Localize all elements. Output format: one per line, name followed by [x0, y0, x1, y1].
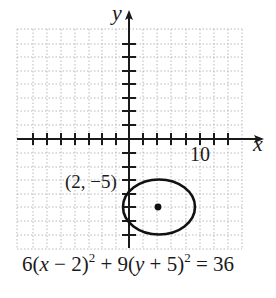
- center-point: [155, 204, 162, 211]
- equation-variable-y: y: [135, 252, 144, 276]
- equation-part: 6(: [22, 252, 40, 276]
- equation-part: + 5): [144, 252, 184, 276]
- x-axis-label: x: [253, 131, 263, 157]
- equation-variable-x: x: [40, 252, 49, 276]
- center-point-label: (2, −5): [65, 171, 117, 193]
- axes: [17, 16, 258, 248]
- ellipse-equation: 6(x − 2)2 + 9(y + 5)2 = 36: [22, 252, 234, 277]
- equation-part: = 36: [191, 252, 234, 276]
- equation-part: − 2): [49, 252, 89, 276]
- y-axis-label: y: [112, 0, 122, 26]
- x-tick-label-10: 10: [190, 143, 210, 166]
- equation-part: + 9(: [95, 252, 135, 276]
